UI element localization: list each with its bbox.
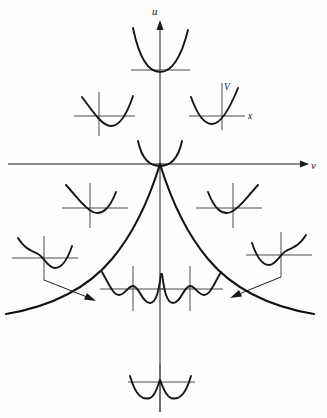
pointer-left-fold-arrowhead xyxy=(84,293,96,301)
pointer-left-fold xyxy=(44,280,96,301)
inset-x-axis-label: x xyxy=(247,111,253,121)
figure-canvas: u v V x xyxy=(0,0,327,418)
inset-potential-upper-right: V x xyxy=(189,82,253,130)
inset-potential-upper-left xyxy=(74,92,135,136)
inset-potential-inner-left xyxy=(100,266,163,311)
u-axis-label: u xyxy=(152,5,158,17)
pointer-right-fold-arrowhead xyxy=(230,290,242,298)
inset-potential-curve xyxy=(191,88,238,124)
v-axis-label: v xyxy=(311,159,316,171)
u-axis-arrowhead xyxy=(157,20,164,30)
inset-potential-curve xyxy=(66,185,116,213)
inset-potential-on-right-fold xyxy=(246,232,312,277)
inset-potential-inner-right xyxy=(160,266,223,311)
cusp-catastrophe-figure: u v V x xyxy=(0,0,327,418)
inset-potential-curve xyxy=(252,235,306,265)
inset-potential-curve xyxy=(82,96,133,126)
inset-potential-mid-right xyxy=(196,183,262,228)
inset-potential-curve xyxy=(18,238,72,268)
inset-v-axis-label: V xyxy=(224,82,231,92)
pointer-right-fold-line xyxy=(234,277,281,296)
inset-potential-curve xyxy=(102,272,161,303)
v-axis-arrowhead xyxy=(300,161,309,168)
inset-potential-on-left-fold xyxy=(12,236,78,280)
cusp-fold-left-branch xyxy=(6,164,160,314)
inset-potential-bottom xyxy=(128,364,195,412)
inset-potential-curve xyxy=(162,272,221,303)
inset-potential-mid-left xyxy=(62,183,128,228)
main-axes: u v xyxy=(8,5,316,412)
